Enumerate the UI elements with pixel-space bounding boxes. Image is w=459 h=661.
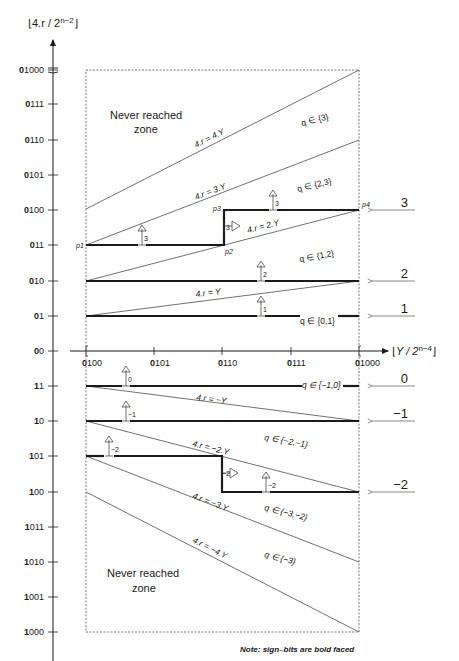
q-region-0-1: q ∈ {0,1}: [300, 316, 335, 326]
y-tick-label: 0100: [24, 205, 44, 215]
label-4r-neg-4y: 4.r = −4.Y: [191, 535, 230, 561]
label-4r-neg-2y: 4.r = −2.Y: [192, 438, 232, 457]
line-4r-neg-4y: [86, 492, 359, 632]
x-tick-label: 0100: [82, 358, 102, 368]
side-digit-label: 0: [401, 371, 408, 386]
q-region-3: q ∈ {3}: [300, 111, 330, 127]
zone-bottom-line2: zone: [132, 582, 156, 594]
y-tick-label: 0110: [25, 135, 44, 145]
x-tick-label: 0111: [287, 358, 306, 368]
y-tick-label: 0111: [25, 99, 44, 109]
line-4r-y: [86, 281, 359, 316]
q-region-neg3: q ∈ {−3}: [264, 549, 297, 566]
q-region-neg3-neg2: q ∈ {−3,−2}: [264, 502, 309, 522]
svg-text:⌊Y / 2n−4⌋: ⌊Y / 2n−4⌋: [392, 344, 436, 357]
x-tick-label: 01000: [355, 358, 380, 368]
y-tick-label: 1000: [24, 627, 44, 637]
zone-top-line2: zone: [134, 123, 158, 135]
diagram-canvas: ⌊4.r / 2n−2⌋ 010000111011001010100011010…: [0, 0, 459, 661]
sideways-digit-neg2: −2: [222, 470, 230, 477]
label-4r-3y: 4.r = 3.Y: [193, 180, 228, 201]
digit-label: 2: [263, 271, 267, 278]
y-tick-label: 100: [29, 487, 44, 497]
y-tick-label: 01000: [19, 65, 44, 75]
x-axis-ticks: 010001010110011101000: [82, 346, 380, 368]
q-region-neg2-neg1: q ∈ {−2,−1}: [264, 432, 309, 449]
digit-label: 1: [263, 306, 267, 313]
zone-bottom-line1: Never reached: [107, 567, 179, 579]
label-4r-y: 4.r = Y: [195, 286, 222, 299]
sideways-digit-3: 3: [226, 224, 230, 231]
y-tick-label: 1011: [25, 522, 44, 532]
point-p3: p3: [212, 205, 221, 213]
x-axis-title: ⌊Y / 2n−4⌋: [392, 344, 436, 357]
q-region-neg1-0: q ∈ {−1,0}: [302, 380, 341, 390]
point-p2: p2: [224, 248, 233, 256]
digit-label: −2: [268, 482, 276, 489]
y-tick-label: 010: [29, 276, 44, 286]
x-tick-label: 0110: [218, 358, 237, 368]
digit-label: 3: [144, 235, 148, 242]
y-tick-label: 101: [29, 451, 44, 461]
footnote: Note: sign–bits are bold faced: [240, 645, 355, 654]
q-region-2-3: q ∈ {2,3}: [296, 176, 332, 194]
y-tick-label: 1001: [24, 592, 44, 602]
y-tick-label: 1010: [24, 557, 44, 567]
svg-text:⌊4.r / 2n−2⌋: ⌊4.r / 2n−2⌋: [28, 16, 78, 29]
side-digit-label: 2: [401, 266, 408, 281]
digit-label: 3: [275, 200, 279, 207]
y-tick-label: 10: [34, 416, 44, 426]
point-p1: p1: [75, 242, 84, 250]
q-region-1-2: q ∈ {1,2}: [299, 248, 335, 264]
selection-arrows: 3210−1−2: [372, 195, 415, 492]
side-digit-label: −2: [393, 477, 408, 492]
label-4r-neg-3y: 4.r = −3.Y: [191, 491, 231, 514]
y-axis-title: ⌊4.r / 2n−2⌋: [28, 16, 78, 29]
y-tick-label: 0101: [24, 170, 44, 180]
side-digit-label: −1: [393, 406, 408, 421]
y-axis-ticks: 0100001110110010101000110100100111010110…: [19, 65, 58, 637]
digit-label: −1: [128, 411, 136, 418]
x-tick-label: 0101: [150, 358, 170, 368]
y-tick-label: 011: [30, 240, 44, 250]
side-digit-label: 1: [401, 301, 408, 316]
point-p4: p4: [361, 201, 370, 209]
y-tick-label: 01: [34, 311, 44, 321]
digit-label: −2: [111, 446, 119, 453]
digit-label: 0: [128, 376, 132, 383]
label-4r-2y: 4.r = 2.Y: [246, 217, 281, 235]
side-digit-label: 3: [401, 195, 408, 210]
line-4r-3y: [86, 140, 359, 245]
label-4r-neg-y: 4.r = −Y: [196, 392, 229, 406]
zone-top-line1: Never reached: [110, 109, 182, 121]
y-tick-label: 00: [34, 346, 44, 356]
y-tick-label: 11: [34, 381, 44, 391]
